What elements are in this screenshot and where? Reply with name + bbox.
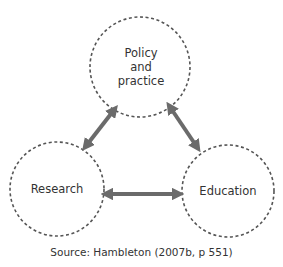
- diagram-canvas: [0, 0, 283, 267]
- research-label: Research: [31, 182, 84, 196]
- source-caption: Source: Hambleton (2007b, p 551): [0, 246, 283, 258]
- education-label: Education: [199, 184, 256, 198]
- policy-label: Policy and practice: [118, 46, 165, 88]
- arrow-policy-education: [170, 107, 197, 147]
- arrow-research-policy: [86, 110, 114, 146]
